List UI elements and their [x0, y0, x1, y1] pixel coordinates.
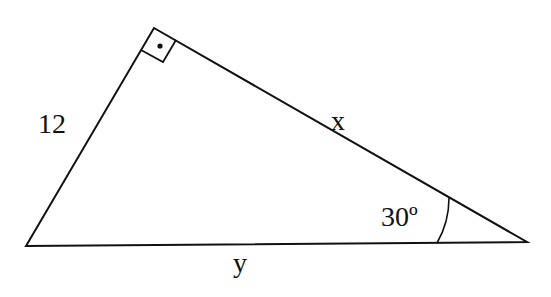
- side-label-12: 12: [38, 108, 66, 139]
- angle-arc: [437, 198, 449, 243]
- right-angle-marker: [141, 40, 176, 62]
- side-label-y: y: [233, 247, 247, 278]
- triangle-diagram: 12 x y 30º: [0, 0, 551, 297]
- right-angle-dot: [157, 43, 162, 48]
- side-label-x: x: [331, 105, 345, 136]
- triangle: [26, 28, 527, 246]
- angle-label-30: 30º: [381, 201, 418, 232]
